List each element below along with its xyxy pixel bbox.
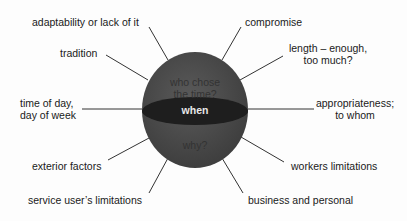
center-label: when	[165, 104, 225, 116]
label-time-of-day-line1: time of day,	[20, 97, 76, 109]
label-time-of-day-line2: day of week	[20, 109, 76, 121]
label-tradition: tradition	[60, 47, 97, 59]
label-appropriateness-line1: appropriateness;	[305, 97, 405, 109]
label-length-line2: too much?	[278, 54, 378, 66]
label-length-line1: length – enough,	[278, 42, 378, 54]
label-adaptability: adaptability or lack of it	[32, 16, 139, 28]
label-business-and-personal: business and personal	[248, 194, 353, 206]
label-workers-limitations: workers limitations	[291, 160, 377, 172]
label-compromise: compromise	[245, 16, 302, 28]
label-exterior-factors: exterior factors	[32, 160, 101, 172]
label-appropriateness: appropriateness; to whom	[305, 97, 405, 121]
sphere-text-line-1: who chose	[165, 76, 225, 88]
sphere-upper-text: who chose the time?	[165, 76, 225, 100]
label-time-of-day: time of day, day of week	[20, 97, 76, 121]
label-appropriateness-line2: to whom	[305, 109, 405, 121]
sphere-lower-text: why?	[165, 139, 225, 151]
label-service-users-limitations: service user’s limitations	[28, 194, 142, 206]
label-length: length – enough, too much?	[278, 42, 378, 66]
sphere-text-line-2: the time?	[165, 88, 225, 100]
